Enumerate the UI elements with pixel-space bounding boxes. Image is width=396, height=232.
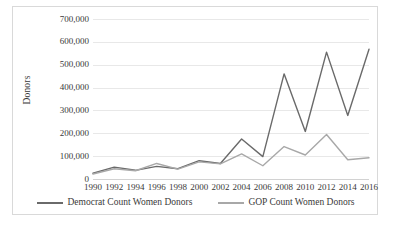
legend-item[interactable]: GOP Count Women Donors — [218, 197, 354, 208]
legend-swatch-icon — [37, 202, 63, 204]
y-axis-tick-label: 400,000 — [35, 83, 89, 92]
y-axis-tick-label: 300,000 — [35, 106, 89, 115]
plot-area — [93, 19, 369, 179]
legend-label: GOP Count Women Donors — [248, 197, 354, 208]
x-axis-tick-label: 2016 — [354, 182, 384, 193]
y-axis-tick-label: 200,000 — [35, 129, 89, 138]
series-line — [93, 134, 369, 174]
y-axis-tick-label: 100,000 — [35, 152, 89, 161]
y-axis-tick-label: 500,000 — [35, 60, 89, 69]
chart-legend: Democrat Count Women DonorsGOP Count Wom… — [13, 197, 379, 208]
legend-label: Democrat Count Women Donors — [67, 197, 192, 208]
series-line — [93, 49, 369, 173]
gridline — [93, 179, 369, 180]
y-axis-tick-label: 600,000 — [35, 37, 89, 46]
series-lines — [93, 19, 369, 179]
y-axis-title: Donors — [22, 50, 32, 130]
x-axis-tick-labels: 1990199219941996199820002002200420062008… — [93, 182, 369, 196]
plot-wrapper: Donors 700,000600,000500,000400,000300,0… — [13, 7, 379, 216]
legend-item[interactable]: Democrat Count Women Donors — [37, 197, 192, 208]
chart-frame: Donors 700,000600,000500,000400,000300,0… — [12, 6, 378, 215]
chart-figure: Donors 700,000600,000500,000400,000300,0… — [0, 0, 396, 232]
legend-swatch-icon — [218, 202, 244, 204]
y-axis-tick-label: 700,000 — [35, 15, 89, 24]
